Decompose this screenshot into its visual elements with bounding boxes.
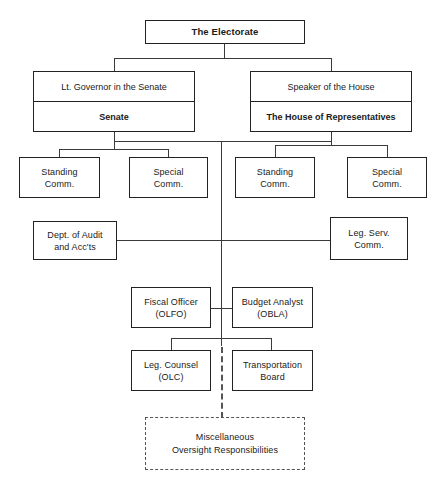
- node-label-line1: Transportation: [243, 359, 302, 371]
- node-label-line2: and Acc'ts: [54, 241, 96, 253]
- node-house-group[interactable]: Speaker of the House The House of Repres…: [250, 71, 412, 132]
- connector-senate-standing: [59, 149, 60, 157]
- connector-joint-bus: [114, 141, 332, 142]
- connector-audit-legserv: [117, 240, 330, 241]
- node-label-line2: Comm.: [45, 178, 75, 190]
- node-label-line2: (OLFO): [155, 308, 186, 320]
- connector-to-leg-counsel: [171, 338, 172, 350]
- node-senate-head: Lt. Governor in the Senate: [34, 72, 194, 101]
- connector-electorate-stem: [224, 44, 225, 58]
- connector-senate-special: [168, 149, 169, 157]
- node-senate-group[interactable]: Lt. Governor in the Senate Senate: [33, 71, 195, 132]
- node-label-line2: Board: [260, 371, 285, 383]
- node-label-line1: Standing: [41, 166, 77, 178]
- connector-house-committee-bus: [275, 145, 387, 146]
- connector-electorate-bus: [114, 58, 331, 59]
- node-label-line2: Comm.: [260, 178, 290, 190]
- node-label-line1: Standing: [257, 166, 293, 178]
- connector-dashed-spine: [221, 347, 223, 418]
- connector-fiscal-budget: [211, 308, 232, 309]
- node-electorate[interactable]: The Electorate: [145, 20, 305, 44]
- node-label-line2: Comm.: [154, 178, 184, 190]
- node-label-line1: Fiscal Officer: [144, 296, 198, 308]
- node-label-line1: Leg. Serv.: [348, 227, 389, 239]
- node-transportation-board[interactable]: Transportation Board: [232, 350, 313, 391]
- connector-to-senate: [114, 58, 115, 71]
- connector-house-standing: [275, 145, 276, 157]
- node-legislative-service-commission[interactable]: Leg. Serv. Comm.: [330, 217, 408, 260]
- node-senate-special-committee[interactable]: Special Comm.: [129, 157, 208, 198]
- connector-house-stem: [331, 132, 332, 145]
- node-label-line1: Special: [153, 166, 183, 178]
- node-label-line2: Oversight Responsibilities: [172, 444, 278, 457]
- node-house-body: The House of Representatives: [251, 101, 411, 131]
- connector-to-house: [331, 58, 332, 71]
- node-legislative-counsel[interactable]: Leg. Counsel (OLC): [131, 350, 211, 391]
- org-chart: The Electorate Lt. Governor in the Senat…: [0, 0, 443, 493]
- connector-central-spine: [221, 141, 222, 346]
- connector-lower-bus: [171, 338, 271, 339]
- connector-to-transportation-board: [271, 338, 272, 350]
- connector-house-special: [387, 145, 388, 157]
- node-miscellaneous-oversight[interactable]: Miscellaneous Oversight Responsibilities: [145, 417, 305, 470]
- node-label-line1: Leg. Counsel: [144, 359, 198, 371]
- node-label-line2: Comm.: [354, 239, 384, 251]
- node-house-head: Speaker of the House: [251, 72, 411, 101]
- node-senate-standing-committee[interactable]: Standing Comm.: [19, 157, 100, 198]
- node-budget-analyst[interactable]: Budget Analyst (OBLA): [232, 287, 313, 328]
- node-label-line1: Budget Analyst: [242, 296, 303, 308]
- connector-senate-committee-bus: [59, 149, 169, 150]
- node-label-line1: Special: [372, 166, 402, 178]
- node-label-line2: (OBLA): [257, 308, 288, 320]
- node-senate-body: Senate: [34, 101, 194, 131]
- node-label-line2: Comm.: [372, 178, 402, 190]
- node-fiscal-officer[interactable]: Fiscal Officer (OLFO): [131, 287, 211, 328]
- node-house-standing-committee[interactable]: Standing Comm.: [235, 157, 315, 198]
- node-label-line1: Dept. of Audit: [47, 229, 102, 241]
- node-electorate-label: The Electorate: [192, 26, 259, 38]
- node-label-line2: (OLC): [159, 371, 184, 383]
- node-label-line1: Miscellaneous: [196, 431, 254, 444]
- node-house-special-committee[interactable]: Special Comm.: [347, 157, 427, 198]
- node-dept-of-audit[interactable]: Dept. of Audit and Acc'ts: [33, 221, 117, 260]
